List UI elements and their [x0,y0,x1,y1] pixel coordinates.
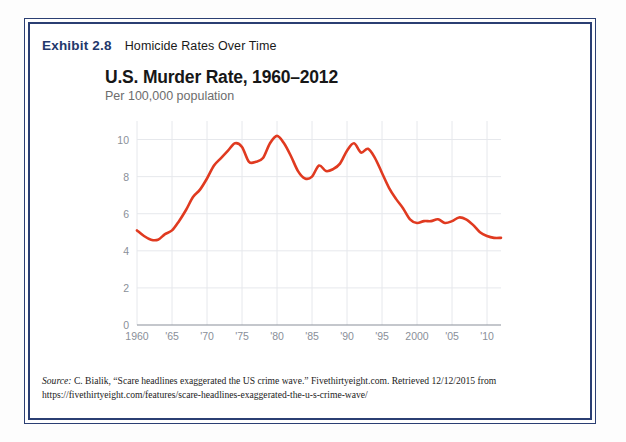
source-label: Source: [42,375,71,386]
x-tick-label: '70 [200,330,214,342]
x-tick-label: '65 [165,330,179,342]
chart-subtitle: Per 100,000 population [105,89,525,104]
exhibit-content: Exhibit 2.8Homicide Rates Over Time U.S.… [25,19,595,423]
chart-plot-area: 0246810 1960'65'70'75'80'85'90'952000'05… [105,115,505,347]
exhibit-title: Homicide Rates Over Time [125,39,277,53]
exhibit-label: Exhibit 2.8 [42,38,112,53]
y-tick-label: 6 [123,208,129,220]
x-tick-label: '10 [480,330,494,342]
x-tick-label: '75 [235,330,249,342]
x-tick-label: '85 [305,330,319,342]
y-tick-label: 8 [123,171,129,183]
series-line [137,136,501,240]
chart-title: U.S. Murder Rate, 1960–2012 [105,67,525,87]
exhibit-caption: Exhibit 2.8Homicide Rates Over Time [42,36,276,54]
page-root: Exhibit 2.8Homicide Rates Over Time U.S.… [0,0,626,442]
source-text: C. Bialik, “Scare headlines exaggerated … [42,375,496,400]
x-tick-label: 2000 [405,330,429,342]
chart-x-axis: 1960'65'70'75'80'85'90'952000'05'10 [125,325,501,342]
x-tick-label: 1960 [125,330,149,342]
chart-block: U.S. Murder Rate, 1960–2012 Per 100,000 … [105,67,525,367]
x-tick-label: '05 [445,330,459,342]
chart-y-axis: 0246810 [117,134,129,331]
murder-rate-line-chart: 0246810 1960'65'70'75'80'85'90'952000'05… [105,115,505,347]
y-tick-label: 2 [123,282,129,294]
chart-series-layer [137,136,501,240]
y-tick-label: 10 [117,134,129,146]
x-tick-label: '80 [270,330,284,342]
source-note: Source: C. Bialik, “Scare headlines exag… [42,374,582,402]
exhibit-frame: Exhibit 2.8Homicide Rates Over Time U.S.… [24,18,596,424]
x-tick-label: '95 [375,330,389,342]
y-tick-label: 4 [123,245,129,257]
x-tick-label: '90 [340,330,354,342]
